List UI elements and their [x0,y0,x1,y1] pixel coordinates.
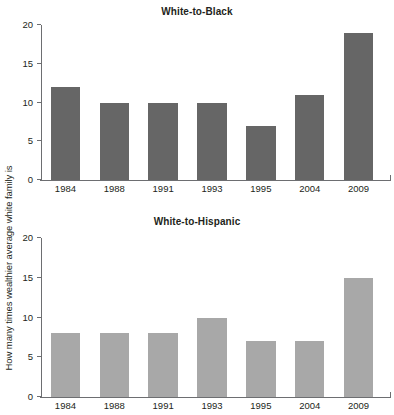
bar-top-1984 [51,87,80,180]
x-tick-label-bottom-1991: 1991 [139,400,188,411]
y-tick-label-top-15: 15 [22,57,33,68]
bar-slot [236,238,285,397]
bar-top-1991 [148,103,177,181]
bar-slot [90,238,139,397]
bar-bottom-1993 [197,318,226,398]
y-tick-label-bottom-15: 15 [22,271,33,282]
x-tick-label-bottom-1988: 1988 [90,400,139,411]
chart-title-top: White-to-Black [0,6,394,17]
y-tick-label-bottom-0: 0 [28,391,33,402]
bar-slot [188,25,237,180]
y-tick-label-bottom-5: 5 [28,351,33,362]
bar-bottom-2004 [295,341,324,397]
x-tick-label-bottom-2009: 2009 [334,400,383,411]
plot-area-top: 05101520 [41,25,383,180]
x-tick-labels-top: 1984198819911993199520042009 [41,183,383,194]
x-tick-label-top-2009: 2009 [334,183,383,194]
bar-group-bottom [41,238,383,397]
bar-top-1995 [246,126,275,180]
plot-area-bottom: 05101520 [41,238,383,397]
bar-bottom-2009 [344,278,373,397]
figure: How many times wealthier average white f… [0,0,394,415]
x-tick-label-top-1993: 1993 [188,183,237,194]
y-tick-label-top-10: 10 [22,96,33,107]
x-axis-endcap-top [390,175,391,181]
bar-slot [334,238,383,397]
chart-panel-white-to-black: White-to-Black 05101520 1984198819911993… [0,0,394,200]
bar-bottom-1984 [51,333,80,397]
bar-slot [188,238,237,397]
bar-slot [90,25,139,180]
x-tick-label-top-1988: 1988 [90,183,139,194]
x-tick-label-bottom-2004: 2004 [285,400,334,411]
x-tick-label-bottom-1993: 1993 [188,400,237,411]
x-tick-label-top-1984: 1984 [41,183,90,194]
bar-bottom-1991 [148,333,177,397]
bar-slot [139,238,188,397]
y-tick-label-top-0: 0 [28,174,33,185]
bar-group-top [41,25,383,180]
bar-slot [285,238,334,397]
bar-top-2004 [295,95,324,180]
bar-top-2009 [344,33,373,180]
bar-slot [334,25,383,180]
x-tick-label-bottom-1984: 1984 [41,400,90,411]
chart-title-bottom: White-to-Hispanic [0,216,394,227]
bar-top-1988 [100,103,129,181]
x-tick-labels-bottom: 1984198819911993199520042009 [41,400,383,411]
bar-slot [41,238,90,397]
bar-bottom-1995 [246,341,275,397]
bar-slot [285,25,334,180]
x-tick-label-top-2004: 2004 [285,183,334,194]
bar-top-1993 [197,103,226,181]
y-tick-label-top-5: 5 [28,135,33,146]
bar-slot [139,25,188,180]
x-tick-label-top-1995: 1995 [236,183,285,194]
x-tick-label-top-1991: 1991 [139,183,188,194]
bar-bottom-1988 [100,333,129,397]
bar-slot [41,25,90,180]
y-tick-label-bottom-20: 20 [22,232,33,243]
x-axis-endcap-bottom [390,392,391,398]
bar-slot [236,25,285,180]
y-tick-label-top-20: 20 [22,19,33,30]
chart-panel-white-to-hispanic: White-to-Hispanic 05101520 1984198819911… [0,210,394,415]
x-tick-label-bottom-1995: 1995 [236,400,285,411]
y-tick-label-bottom-10: 10 [22,311,33,322]
